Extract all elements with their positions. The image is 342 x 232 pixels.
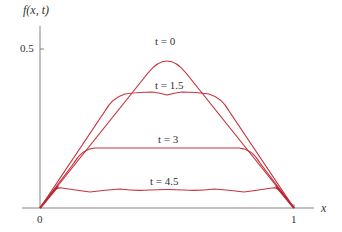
annotation-t3: t = 3 xyxy=(158,133,178,145)
y-tick-label: 0.5 xyxy=(20,42,34,54)
x-tick-label-1: 1 xyxy=(291,213,297,225)
curve-t4.5 xyxy=(40,188,294,208)
annotation-t1.5: t = 1.5 xyxy=(155,79,184,91)
annotation-t4.5: t = 4.5 xyxy=(150,175,179,187)
y-axis-label: f(x, t) xyxy=(23,3,49,18)
x-axis-label: x xyxy=(321,201,326,216)
right-edge xyxy=(276,186,294,208)
annotation-t0: t = 0 xyxy=(155,35,175,47)
left-edge xyxy=(40,186,58,208)
x-tick-label-0: 0 xyxy=(37,213,43,225)
